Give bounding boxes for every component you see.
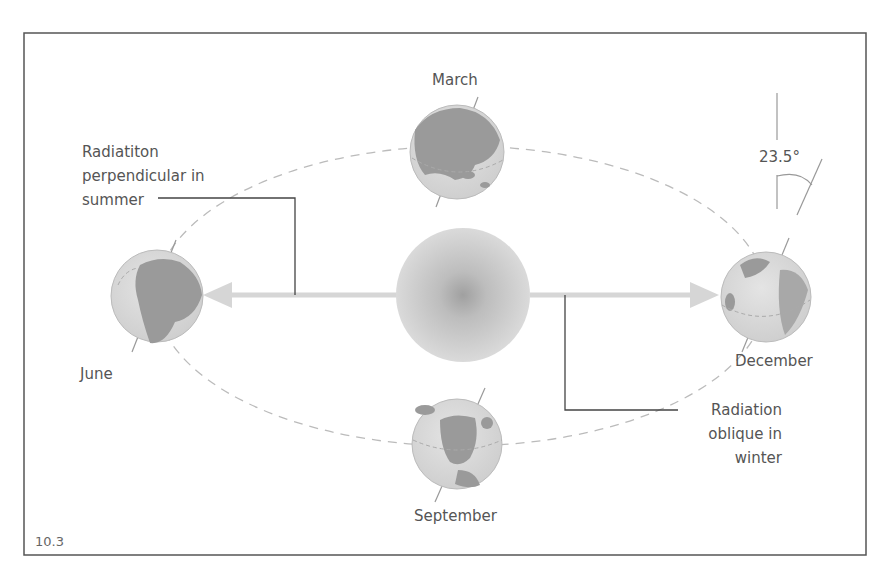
- sun: [396, 228, 530, 362]
- label-june: June: [80, 362, 113, 386]
- annotation-winter-line-1: Radiation: [682, 398, 782, 422]
- annotation-winter: Radiation oblique in winter: [682, 398, 782, 470]
- earth-orbit-diagram: March June September December 23.5° Radi…: [0, 0, 884, 573]
- annotation-summer-line-2: perpendicular in: [82, 164, 205, 188]
- globe-september: [412, 388, 502, 502]
- globe-december: [721, 238, 811, 352]
- annotation-summer-line-1: Radiatiton: [82, 140, 205, 164]
- annotation-summer-line-3: summer: [82, 188, 205, 212]
- annotation-winter-line-2: oblique in: [682, 422, 782, 446]
- annotation-summer: Radiatiton perpendicular in summer: [82, 140, 205, 212]
- winter-callout-line: [565, 295, 678, 410]
- globe-june: [111, 240, 203, 352]
- label-march: March: [432, 68, 478, 92]
- radiation-arrow-right: [530, 282, 719, 308]
- annotation-winter-line-3: winter: [682, 446, 782, 470]
- label-september: September: [414, 504, 497, 528]
- figure-number: 10.3: [35, 530, 64, 554]
- label-tilt-angle: 23.5°: [759, 145, 800, 169]
- label-december: December: [735, 349, 813, 373]
- globe-march: [410, 97, 504, 207]
- radiation-arrow-left: [203, 282, 398, 308]
